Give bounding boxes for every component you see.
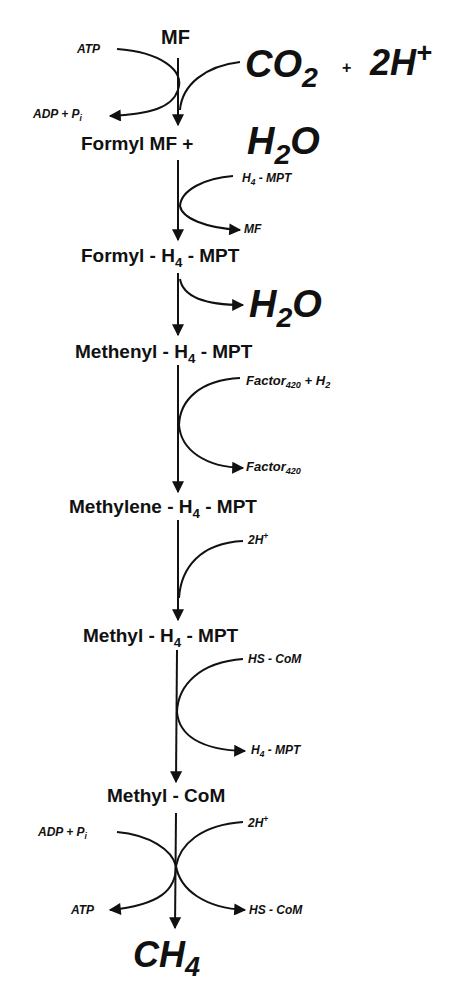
water2-post: O [292, 283, 322, 325]
water1-post: O [290, 120, 320, 162]
step2-mf-out: MF [244, 223, 261, 235]
arrow-h2o-out [180, 279, 243, 305]
ch4-pre: CH [133, 934, 185, 975]
step6-hscom-in: HS - CoM [248, 653, 301, 665]
methyl-h4mpt-pre: Methyl - H [83, 625, 174, 646]
step6-h4mpt-out: H4 - MPT [251, 744, 300, 756]
methyl-h4mpt-post: - MPT [181, 625, 238, 646]
intermediate-methyl-h4mpt: Methyl - H4 - MPT [83, 626, 238, 645]
step7-protons: 2H+ [248, 817, 268, 829]
f420-sub: 420 [286, 466, 301, 476]
hscom-out-label: HS - CoM [249, 903, 302, 917]
arrow-atp-to-adp [110, 49, 179, 116]
protons-pre: 2H [370, 42, 416, 83]
f420h2-pre: Factor [246, 373, 286, 388]
methylene-post: - MPT [200, 496, 257, 517]
atp-label: ATP [77, 42, 100, 56]
f420h2-sub: 420 [286, 380, 301, 390]
adp-pre: ADP + P [33, 107, 80, 121]
formyl-mf-label: Formyl MF + [81, 133, 193, 154]
plus-sign: + [342, 59, 351, 76]
intermediate-methylene-h4mpt: Methylene - H4 - MPT [69, 497, 257, 516]
methylene-pre: Methylene - H [69, 496, 193, 517]
step5-protons: 2H+ [248, 534, 268, 546]
co2-pre: CO [245, 43, 302, 85]
ch4-sub: 4 [185, 952, 200, 982]
step1-atp: ATP [77, 43, 100, 55]
hscom-in-label: HS - CoM [248, 652, 301, 666]
arrow-co2-in [180, 62, 240, 110]
adp2-sub: i [85, 831, 87, 841]
adp2-pre: ADP + P [38, 825, 85, 839]
f420h2-sub2: 2 [325, 380, 330, 390]
adp-sub: i [80, 113, 82, 123]
product-ch4: CH4 [133, 937, 200, 973]
step3-water-out: H2O [249, 285, 322, 323]
intermediate-formyl-mf: Formyl MF + [81, 134, 193, 153]
atp2-label: ATP [71, 903, 94, 917]
methenyl-post: - MPT [195, 341, 252, 362]
step7-protons-pre: 2H [248, 816, 263, 830]
f420h2-post: + H [301, 373, 325, 388]
arrow-2h-in [179, 541, 243, 598]
methyl-com-label: Methyl - CoM [107, 785, 225, 806]
step7-hscom-out: HS - CoM [249, 904, 302, 916]
step1-adp-pi: ADP + Pi [33, 108, 82, 120]
arrow-2h-to-hscom [176, 822, 245, 910]
methylene-sub: 4 [193, 506, 200, 521]
methenyl-pre: Methenyl - H [75, 341, 188, 362]
step1-co2: CO2 [245, 45, 318, 83]
f420-pre: Factor [246, 459, 286, 474]
arrow-hscom-in [177, 659, 245, 751]
arrow-factor420-in [179, 378, 243, 468]
water2-pre: H [249, 283, 276, 325]
water2-sub: 2 [276, 301, 292, 333]
step7-protons-sup: + [263, 814, 268, 824]
step1-protons: 2H+ [370, 45, 432, 81]
h4mpt-in-post: - MPT [255, 171, 291, 185]
arrow-h4mpt-in [180, 176, 240, 230]
step5-protons-sup: + [263, 531, 268, 541]
step2-h4mpt-in: H4 - MPT [242, 172, 291, 184]
h4mpt-in-pre: H [242, 171, 251, 185]
intermediate-formyl-h4mpt: Formyl - H4 - MPT [81, 246, 239, 265]
h4mpt-out-pre: H [251, 743, 260, 757]
protons-sup: + [416, 38, 432, 68]
intermediate-methyl-com: Methyl - CoM [107, 786, 225, 805]
step1-water: H2O [247, 122, 320, 160]
step5-protons-pre: 2H [248, 533, 263, 547]
step1-plus: + [342, 60, 351, 76]
intermediate-mf: MF [161, 27, 190, 47]
water1-sub: 2 [274, 138, 290, 170]
step7-adp-pi: ADP + Pi [38, 826, 87, 838]
mf-label: MF [161, 26, 190, 48]
step4-factor420-out: Factor420 [246, 460, 301, 473]
intermediate-methenyl-h4mpt: Methenyl - H4 - MPT [75, 342, 252, 361]
formyl-h4mpt-pre: Formyl - H [81, 245, 175, 266]
step4-factor420-h2: Factor420 + H2 [246, 374, 330, 387]
mf-out-label: MF [244, 222, 261, 236]
co2-sub: 2 [302, 61, 318, 93]
step7-atp: ATP [71, 904, 94, 916]
arrow-adp-to-atp [110, 832, 176, 910]
formyl-h4mpt-post: - MPT [182, 245, 239, 266]
h4mpt-out-post: - MPT [264, 743, 300, 757]
water1-pre: H [247, 120, 274, 162]
